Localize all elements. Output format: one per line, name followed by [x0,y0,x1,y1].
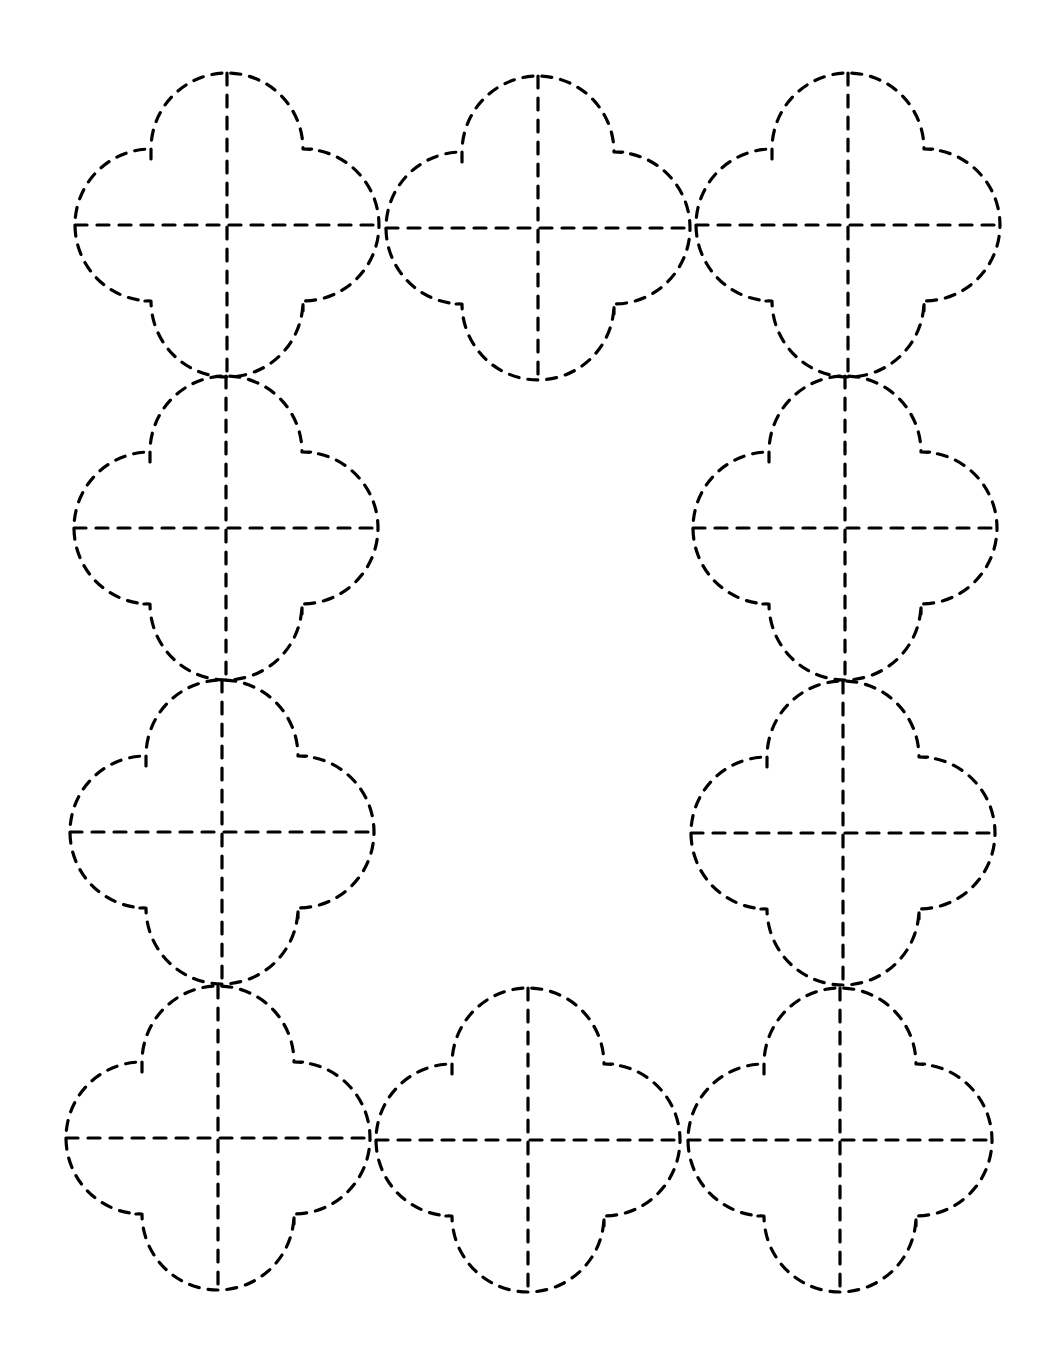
quatrefoil-right-upper [693,376,997,680]
quatrefoil-bottom-middle [376,988,680,1292]
quatrefoil-bottom-right [688,988,992,1292]
quatrefoil-left-lower [70,680,374,984]
quatrefoil-left-upper [74,376,378,680]
quatrefoil-bottom-left [66,986,370,1290]
quatrefoil-frame [0,0,1063,1358]
quatrefoil-top-left [75,73,379,377]
quatrefoil-top-right [696,73,1000,377]
quatrefoil-right-lower [691,681,995,985]
quatrefoil-top-middle [386,76,690,380]
